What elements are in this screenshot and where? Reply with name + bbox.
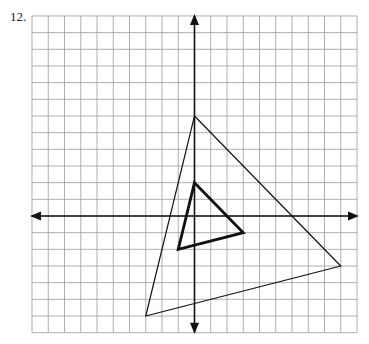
y-axis-down-arrow-icon	[190, 323, 199, 334]
axes	[30, 14, 359, 334]
coordinate-plane	[0, 0, 369, 344]
